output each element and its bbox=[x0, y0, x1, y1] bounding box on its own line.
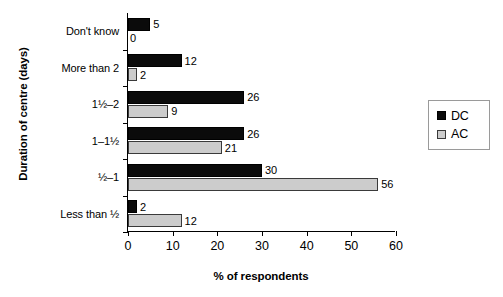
category-row: ½–13056 bbox=[128, 159, 395, 196]
category-row: 1–1½2621 bbox=[128, 123, 395, 160]
x-axis-tick-label: 0 bbox=[125, 239, 132, 253]
x-axis-tick-label: 40 bbox=[300, 239, 314, 253]
x-axis-tick bbox=[351, 231, 352, 236]
bar-value-label: 0 bbox=[130, 33, 136, 44]
y-axis-tick-label: Don't know bbox=[66, 25, 119, 37]
bar-ac: 2 bbox=[128, 68, 137, 81]
legend-label-dc: DC bbox=[451, 110, 469, 123]
bar-ac: 56 bbox=[128, 178, 378, 191]
legend-label-ac: AC bbox=[451, 128, 468, 141]
bar-value-label: 2 bbox=[140, 201, 146, 212]
bar-dc: 5 bbox=[128, 18, 150, 31]
y-axis-tick-label: ½–1 bbox=[98, 171, 119, 183]
bar-dc: 12 bbox=[128, 54, 182, 67]
x-axis-tick-label: 30 bbox=[255, 239, 269, 253]
bar-value-label: 9 bbox=[171, 106, 177, 117]
y-axis-tick-label: Less than ½ bbox=[60, 208, 119, 220]
bar-value-label: 26 bbox=[247, 128, 259, 139]
bar-value-label: 12 bbox=[185, 215, 197, 226]
y-axis-tick-label: 1–1½ bbox=[92, 135, 119, 147]
gray-square-icon bbox=[437, 130, 446, 139]
x-axis-tick-label: 20 bbox=[210, 239, 224, 253]
x-axis-tick bbox=[217, 231, 218, 236]
bar-value-label: 26 bbox=[247, 92, 259, 103]
legend-item-dc: DC bbox=[437, 110, 489, 123]
y-axis-title: Duration of centre (days) bbox=[17, 0, 29, 229]
bar-value-label: 5 bbox=[153, 19, 159, 30]
category-row: Don't know50 bbox=[128, 13, 395, 50]
bar-dc: 2 bbox=[128, 200, 137, 213]
plot-area: Don't know50More than 21221½–22691–1½262… bbox=[127, 13, 395, 232]
bar-ac: 21 bbox=[128, 141, 222, 154]
category-row: 1½–2269 bbox=[128, 86, 395, 123]
x-axis-tick-label: 50 bbox=[344, 239, 358, 253]
x-axis-title: % of respondents bbox=[127, 270, 395, 282]
bar-dc: 30 bbox=[128, 164, 262, 177]
y-axis-tick-label: More than 2 bbox=[61, 62, 119, 74]
y-axis-tick-label: 1½–2 bbox=[92, 98, 119, 110]
x-axis-tick-label: 10 bbox=[166, 239, 180, 253]
legend-item-ac: AC bbox=[437, 128, 489, 141]
bar-dc: 26 bbox=[128, 91, 244, 104]
bar-ac: 9 bbox=[128, 105, 168, 118]
bar-value-label: 56 bbox=[381, 179, 393, 190]
x-axis-tick bbox=[396, 231, 397, 236]
x-axis-tick bbox=[128, 231, 129, 236]
category-row: Less than ½212 bbox=[128, 196, 395, 233]
black-square-icon bbox=[437, 111, 446, 120]
x-axis-tick-label: 60 bbox=[389, 239, 403, 253]
x-axis-tick bbox=[262, 231, 263, 236]
chart-legend: DC AC bbox=[428, 100, 490, 150]
bar-ac: 12 bbox=[128, 214, 182, 227]
bar-value-label: 30 bbox=[265, 165, 277, 176]
bar-dc: 26 bbox=[128, 127, 244, 140]
bar-value-label: 2 bbox=[140, 69, 146, 80]
x-axis-tick bbox=[173, 231, 174, 236]
x-axis-tick bbox=[307, 231, 308, 236]
category-row: More than 2122 bbox=[128, 50, 395, 87]
bar-value-label: 12 bbox=[185, 55, 197, 66]
bar-chart-figure: Duration of centre (days) Don't know50Mo… bbox=[0, 0, 503, 297]
bar-value-label: 21 bbox=[225, 142, 237, 153]
